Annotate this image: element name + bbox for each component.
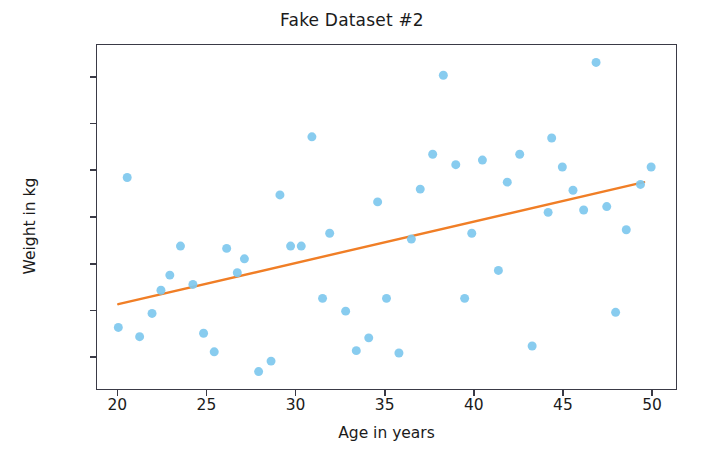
scatter-point bbox=[233, 268, 242, 277]
scatter-point bbox=[364, 333, 373, 342]
x-axis-tick-mark bbox=[117, 390, 119, 396]
x-axis-tick-label: 35 bbox=[375, 396, 395, 414]
scatter-point bbox=[407, 235, 416, 244]
scatter-point bbox=[135, 332, 144, 341]
scatter-point bbox=[611, 308, 620, 317]
scatter-point bbox=[188, 280, 197, 289]
chart-figure: Fake Dataset #2 Weight in kg Age in year… bbox=[0, 0, 704, 460]
scatter-point bbox=[478, 156, 487, 165]
scatter-point bbox=[602, 202, 611, 211]
x-axis-tick-label: 45 bbox=[553, 396, 573, 414]
x-axis-tick-label: 25 bbox=[197, 396, 217, 414]
scatter-point bbox=[451, 160, 460, 169]
scatter-point bbox=[592, 58, 601, 67]
scatter-point bbox=[460, 294, 469, 303]
scatter-point bbox=[547, 133, 556, 142]
scatter-point bbox=[165, 271, 174, 280]
x-axis-label: Age in years bbox=[96, 424, 677, 442]
scatter-point bbox=[579, 206, 588, 215]
x-axis-tick-label: 20 bbox=[108, 396, 128, 414]
plot-area bbox=[96, 44, 677, 390]
scatter-point bbox=[558, 163, 567, 172]
x-axis-tick-mark bbox=[384, 390, 386, 396]
scatter-point bbox=[636, 180, 645, 189]
y-axis-label: Weight in kg bbox=[21, 146, 39, 306]
scatter-point bbox=[416, 185, 425, 194]
scatter-point bbox=[325, 229, 334, 238]
scatter-point bbox=[297, 242, 306, 251]
scatter-point bbox=[439, 71, 448, 80]
scatter-point bbox=[569, 186, 578, 195]
scatter-point bbox=[286, 242, 295, 251]
x-axis-tick-mark bbox=[562, 390, 564, 396]
scatter-point bbox=[123, 173, 132, 182]
x-axis-tick-label: 40 bbox=[464, 396, 484, 414]
scatter-point bbox=[222, 244, 231, 253]
scatter-point bbox=[352, 346, 361, 355]
scatter-point bbox=[114, 323, 123, 332]
scatter-point bbox=[307, 132, 316, 141]
scatter-point bbox=[318, 294, 327, 303]
scatter-point bbox=[199, 329, 208, 338]
scatter-point bbox=[176, 242, 185, 251]
scatter-plot-svg bbox=[97, 45, 676, 389]
scatter-point bbox=[341, 307, 350, 316]
page-title: Fake Dataset #2 bbox=[0, 10, 704, 30]
x-axis-tick-mark bbox=[295, 390, 297, 396]
scatter-point bbox=[647, 163, 656, 172]
x-axis-tick-mark bbox=[651, 390, 653, 396]
scatter-point bbox=[394, 348, 403, 357]
scatter-point bbox=[622, 225, 631, 234]
scatter-point bbox=[148, 309, 157, 318]
x-axis-tick-label: 30 bbox=[286, 396, 306, 414]
x-axis-tick-mark bbox=[206, 390, 208, 396]
scatter-point bbox=[275, 190, 284, 199]
scatter-point bbox=[515, 150, 524, 159]
scatter-point bbox=[528, 342, 537, 351]
scatter-point bbox=[494, 266, 503, 275]
scatter-point bbox=[503, 178, 512, 187]
scatter-point bbox=[467, 229, 476, 238]
scatter-point bbox=[544, 208, 553, 217]
x-axis-tick-label: 50 bbox=[642, 396, 662, 414]
scatter-point bbox=[382, 294, 391, 303]
scatter-point bbox=[240, 254, 249, 263]
scatter-point bbox=[428, 150, 437, 159]
x-axis-tick-mark bbox=[473, 390, 475, 396]
scatter-point bbox=[373, 197, 382, 206]
scatter-point bbox=[210, 347, 219, 356]
scatter-point bbox=[267, 357, 276, 366]
scatter-point bbox=[254, 367, 263, 376]
scatter-point bbox=[156, 286, 165, 295]
